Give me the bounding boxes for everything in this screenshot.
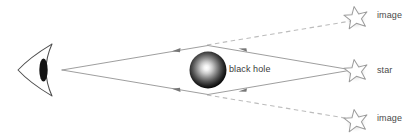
eye-pupil [39,59,47,82]
star-top-image [343,5,369,30]
black-hole-label: black hole [229,64,271,74]
star-true-position [343,58,369,83]
black-hole-body [190,52,227,89]
dashed-ray-to-top-image [207,21,351,45]
dashed-ray-to-bottom-image [207,95,351,119]
black-hole-sphere [190,52,227,89]
star-label: star [377,65,392,75]
top-image-label: image [377,10,402,20]
gravitational-lensing-diagram: black hole image star image [0,0,419,138]
observer-eye [18,44,52,96]
bottom-image-label: image [377,113,402,123]
star-bottom-image [343,108,369,133]
lensing-diagram-canvas [0,0,419,138]
